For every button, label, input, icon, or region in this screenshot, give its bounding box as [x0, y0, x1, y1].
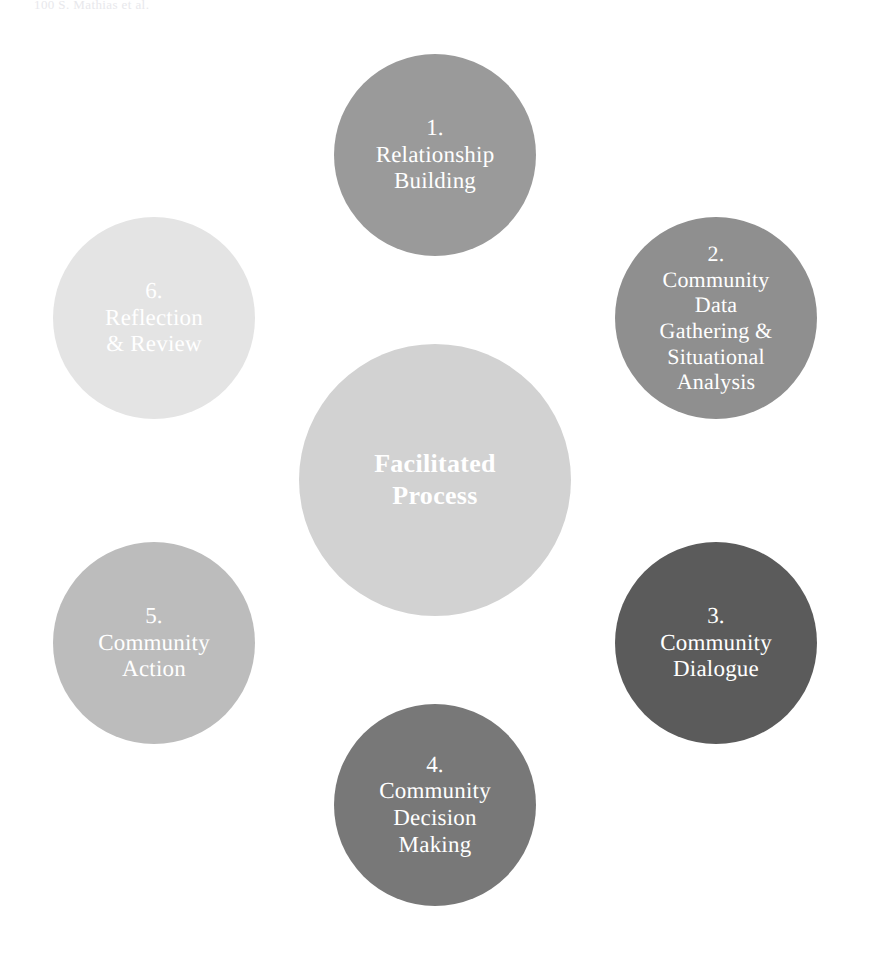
cycle-diagram-canvas	[0, 0, 895, 953]
center-hub-circle	[299, 344, 571, 616]
step-circle-4-community-decision-making[interactable]	[334, 704, 536, 906]
step-circle-5-community-action[interactable]	[53, 542, 255, 744]
step-circle-1-relationship-building[interactable]	[334, 54, 536, 256]
step-circle-2-community-data-gathering[interactable]	[615, 217, 817, 419]
step-circle-3-community-dialogue[interactable]	[615, 542, 817, 744]
cycle-diagram: Facilitated Process 1. Relationship Buil…	[0, 0, 895, 953]
step-circle-6-reflection-review[interactable]	[53, 217, 255, 419]
